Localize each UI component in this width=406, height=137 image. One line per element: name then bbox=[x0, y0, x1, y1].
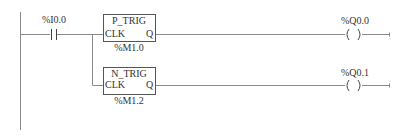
p-trig-clk-pin: CLK bbox=[105, 29, 125, 39]
n-trig-q-pin: Q bbox=[146, 80, 153, 90]
p-trig-title: P_TRIG bbox=[112, 16, 146, 26]
coil-1-address-label: %Q0.0 bbox=[341, 16, 369, 26]
contact-address-label: %I0.0 bbox=[42, 15, 66, 25]
p-trig-q-pin: Q bbox=[146, 29, 153, 39]
coil-icon[interactable] bbox=[347, 29, 360, 40]
n-trig-title: N_TRIG bbox=[111, 69, 147, 79]
coil-icon[interactable] bbox=[347, 80, 360, 91]
p-trig-memory-label: %M1.0 bbox=[114, 43, 144, 53]
normally-open-contact-icon[interactable] bbox=[52, 29, 57, 40]
n-trig-clk-pin: CLK bbox=[105, 80, 125, 90]
n-trig-memory-label: %M1.2 bbox=[114, 96, 144, 106]
coil-2-address-label: %Q0.1 bbox=[341, 68, 369, 78]
